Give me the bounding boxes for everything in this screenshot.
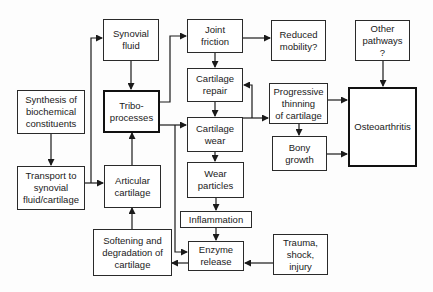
node-bony-growth: Bony growth: [272, 136, 327, 171]
node-inflammation: Inflammation: [180, 211, 252, 228]
node-cartilage-repair: Cartilage repair: [187, 68, 243, 102]
node-reduced-mobility: Reduced mobility?: [271, 20, 326, 61]
node-synthesis: Synthesis of biochemical constituents: [17, 90, 85, 134]
node-tribo-processes: Tribo- processes: [103, 90, 160, 133]
node-other-pathways: Other pathways ?: [355, 20, 410, 61]
node-softening: Softening and degradation of cartilage: [93, 229, 172, 276]
node-trauma: Trauma, shock, injury: [273, 234, 328, 275]
node-progressive-thinning: Progressive thinning of cartilage: [269, 83, 328, 124]
node-joint-friction: Joint friction: [187, 19, 243, 53]
osteoarthritis-flow-diagram: Synovial fluid Tribo- processes Synthesi…: [0, 0, 433, 292]
node-transport: Transport to synovial fluid/cartilage: [17, 166, 85, 210]
node-synovial-fluid: Synovial fluid: [103, 19, 159, 61]
node-wear-particles: Wear particles: [187, 162, 244, 198]
node-osteoarthritis: Osteoarthritis: [348, 87, 417, 167]
node-cartilage-wear: Cartilage wear: [187, 117, 243, 152]
node-enzyme-release: Enzyme release: [188, 241, 244, 271]
node-articular-cartilage: Articular cartilage: [104, 165, 161, 208]
